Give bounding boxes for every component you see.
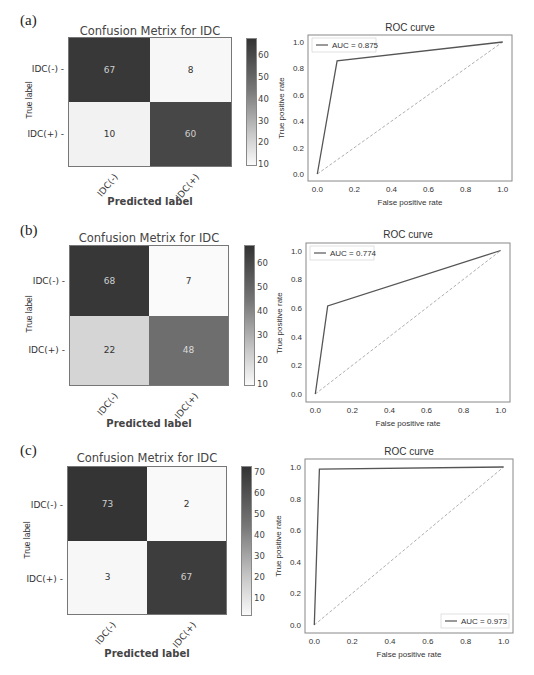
legend-label: AUC = 0.973 [461,617,508,626]
confusion-matrix-c: 73 2 3 67 [67,466,227,615]
cm-ylabel-a: True label [24,75,34,125]
legend-label: AUC = 0.774 [330,249,377,258]
cm-ylabel-b: True label [24,289,34,339]
cm-row-label-pos-c: IDC(+) - [8,574,63,584]
cm-ylabel-c: True label [22,515,32,565]
cm-xlabel-a: Predicted label [68,196,232,207]
cm-cell-tn: 73 [68,467,147,541]
legend-label: AUC = 0.875 [332,41,379,50]
svg-text:0.0: 0.0 [310,406,322,415]
svg-text:0.6: 0.6 [421,406,433,415]
roc-xlabel-c: False positive rate [377,650,442,659]
svg-text:0.4: 0.4 [290,558,302,567]
svg-text:0.0: 0.0 [312,185,324,194]
roc-ylabel-c: True positive rate [274,515,283,577]
cm-col-label-neg-a: IDC(-) [95,172,119,198]
svg-text:1.0: 1.0 [291,247,303,256]
cm-row-label-pos-b: IDC(+) - [10,345,65,355]
svg-text:0.0: 0.0 [291,390,303,399]
panel-label-a: (a) [20,12,37,29]
cm-xlabel-c: Predicted label [67,648,227,659]
cm-title-b: Confusion Metrix for IDC [69,231,229,245]
colorbar-a [246,38,257,166]
cm-cell-fp: 8 [150,38,231,102]
roc-ylabel-a: True positive rate [277,77,286,139]
roc-chart-a: AUC = 0.875 0.0 0.2 0.4 0.6 0.8 1.0 0.0 … [270,30,534,215]
svg-text:0.0: 0.0 [290,621,302,630]
svg-text:0.4: 0.4 [386,185,398,194]
roc-xlabel-b: False positive rate [376,419,441,428]
cm-col-label-pos-b: IDC(+) [172,391,199,421]
svg-text:1.0: 1.0 [290,463,302,472]
svg-text:0.4: 0.4 [291,333,303,342]
svg-text:0.2: 0.2 [349,185,361,194]
svg-text:0.6: 0.6 [291,304,303,313]
panel-label-c: (c) [20,442,37,459]
svg-text:0.8: 0.8 [293,64,305,73]
svg-text:0.8: 0.8 [290,495,302,504]
confusion-matrix-a: 67 8 10 60 [68,37,232,167]
roc-chart-b: AUC = 0.774 0.0 0.2 0.4 0.6 0.8 1.0 0.0 … [268,238,534,438]
cm-row-label-neg-c: IDC(-) - [8,500,63,510]
cm-xlabel-b: Predicted label [69,418,229,429]
cm-row-label-neg-b: IDC(-) - [10,276,65,286]
svg-text:0.6: 0.6 [423,185,435,194]
cm-row-label-pos-a: IDC(+) - [10,129,64,139]
svg-text:0.6: 0.6 [290,526,302,535]
svg-text:1.0: 1.0 [293,38,305,47]
cm-cell-fp: 7 [149,246,228,316]
svg-text:0.2: 0.2 [291,361,303,370]
cm-cell-tn: 67 [69,38,150,102]
cm-col-label-pos-c: IDC(+) [170,620,197,650]
cm-cell-tp: 60 [150,102,231,166]
cm-title-a: Confusion Metrix for IDC [68,24,232,38]
svg-text:1.0: 1.0 [495,406,507,415]
cm-cell-fp: 2 [147,467,226,541]
cm-cell-fn: 22 [70,316,149,386]
svg-text:0.6: 0.6 [293,91,305,100]
colorbar-c [241,466,252,616]
svg-text:0.2: 0.2 [347,637,359,646]
cm-cell-tp: 48 [149,316,228,386]
svg-text:0.0: 0.0 [293,170,305,179]
svg-text:0.2: 0.2 [293,144,305,153]
svg-text:0.6: 0.6 [422,637,434,646]
cm-title-c: Confusion Metrix for IDC [67,451,227,465]
svg-text:1.0: 1.0 [498,637,510,646]
svg-text:0.8: 0.8 [291,275,303,284]
cm-cell-tp: 67 [147,541,226,615]
panel-label-b: (b) [20,222,38,239]
cm-cell-fn: 10 [69,102,150,166]
cm-col-label-neg-c: IDC(-) [93,620,117,646]
cm-cell-tn: 68 [70,246,149,316]
roc-chart-c: AUC = 0.973 0.0 0.2 0.4 0.6 0.8 1.0 0.0 … [267,454,534,675]
cm-cell-fn: 3 [68,541,147,615]
colorbar-b [244,245,255,386]
svg-text:0.4: 0.4 [384,637,396,646]
roc-xlabel-a: False positive rate [378,198,443,207]
cm-col-label-neg-b: IDC(-) [95,391,119,417]
svg-text:0.4: 0.4 [293,117,305,126]
svg-text:0.8: 0.8 [458,406,470,415]
svg-text:0.8: 0.8 [460,185,472,194]
svg-text:0.2: 0.2 [290,589,302,598]
confusion-matrix-b: 68 7 22 48 [69,245,229,386]
svg-text:1.0: 1.0 [497,185,509,194]
svg-text:0.8: 0.8 [460,637,472,646]
cm-row-label-neg-a: IDC(-) - [10,64,64,74]
svg-text:0.0: 0.0 [309,637,321,646]
svg-text:0.4: 0.4 [384,406,396,415]
svg-text:0.2: 0.2 [347,406,359,415]
roc-ylabel-b: True positive rate [275,292,284,354]
